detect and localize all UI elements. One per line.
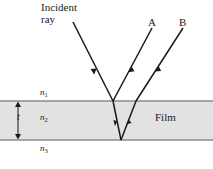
reflected-ray-b (136, 28, 183, 101)
incident-ray (73, 22, 113, 101)
film-thickness-label: t (17, 113, 20, 123)
reflected-ray-a (113, 28, 152, 101)
ray-b-label: B (179, 17, 186, 29)
refractive-index-n1-label: n1 (40, 88, 48, 97)
n2-subscript: 2 (45, 116, 48, 123)
n1-symbol: n (40, 87, 45, 97)
film-layer-rect (0, 101, 213, 140)
n2-symbol: n (40, 112, 45, 122)
n3-subscript: 3 (45, 147, 48, 154)
incident-ray-label: Incident ray (41, 2, 77, 25)
thin-film-interference-figure: Incident ray A B Film n1 n2 n3 t (0, 0, 213, 169)
n3-symbol: n (40, 143, 45, 153)
ray-a-label: A (148, 17, 156, 29)
refractive-index-n2-label: n2 (40, 113, 48, 122)
film-label: Film (155, 112, 176, 124)
n1-subscript: 1 (45, 91, 48, 98)
incident-ray-label-line1: Incident (41, 2, 77, 14)
refractive-index-n3-label: n3 (40, 144, 48, 153)
incident-ray-label-line2: ray (41, 14, 77, 26)
